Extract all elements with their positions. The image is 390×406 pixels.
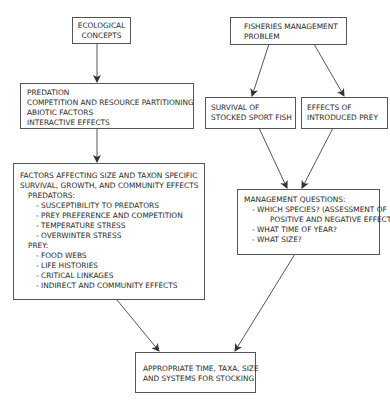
box-line: CONCEPTS bbox=[73, 31, 130, 41]
box-line: APPROPRIATE TIME, TAXA, SIZE bbox=[143, 364, 255, 374]
prey-item: - FOOD WEBS bbox=[20, 251, 204, 261]
box-line: ECOLOGICAL bbox=[73, 21, 130, 31]
predators-label: PREDATORS: bbox=[20, 191, 204, 201]
arrow-problem-to-effects bbox=[314, 44, 344, 96]
question-item: POSITIVE AND NEGATIVE EFFECTS) bbox=[244, 215, 379, 225]
box-line: SURVIVAL OF bbox=[211, 103, 295, 113]
question-item: - WHICH SPECIES? (ASSESSMENT OF bbox=[244, 205, 379, 215]
management-questions-box: MANAGEMENT QUESTIONS: - WHICH SPECIES? (… bbox=[237, 189, 380, 255]
prey-label: PREY: bbox=[20, 241, 204, 251]
principle-abiotic: ABIOTIC FACTORS bbox=[27, 108, 193, 118]
question-item: - WHAT SIZE? bbox=[244, 235, 379, 245]
arrow-survival-to-questions bbox=[259, 128, 287, 188]
arrow-factors-to-appropriate bbox=[117, 300, 159, 351]
questions-title: MANAGEMENT QUESTIONS: bbox=[244, 195, 379, 205]
predator-item: - PREY PREFERENCE AND COMPETITION bbox=[20, 211, 204, 221]
question-item: - WHAT TIME OF YEAR? bbox=[244, 225, 379, 235]
predator-item: - TEMPERATURE STRESS bbox=[20, 221, 204, 231]
box-line: FISHERIES MANAGEMENT bbox=[244, 22, 346, 32]
principle-predation: PREDATION bbox=[27, 88, 193, 98]
effects-prey-box: EFFECTS OF INTRODUCED PREY bbox=[301, 97, 388, 129]
box-line: STOCKED SPORT FISH bbox=[211, 113, 295, 123]
principle-competition: COMPETITION AND RESOURCE PARTITIONING bbox=[27, 98, 193, 108]
fisheries-problem-box: FISHERIES MANAGEMENT PROBLEM bbox=[230, 17, 347, 45]
box-line: AND SYSTEMS FOR STOCKING bbox=[143, 374, 255, 384]
prey-item: - LIFE HISTORIES bbox=[20, 261, 204, 271]
arrow-questions-to-appropriate bbox=[235, 254, 295, 351]
arrow-problem-to-survival bbox=[252, 44, 269, 96]
box-line: EFFECTS OF bbox=[307, 103, 387, 113]
factors-title: SURVIVAL, GROWTH, AND COMMUNITY EFFECTS bbox=[20, 181, 204, 191]
survival-stocked-box: SURVIVAL OF STOCKED SPORT FISH bbox=[205, 97, 296, 129]
factors-title: FACTORS AFFECTING SIZE AND TAXON SPECIFI… bbox=[20, 171, 204, 181]
predator-item: - OVERWINTER STRESS bbox=[20, 231, 204, 241]
factors-box: FACTORS AFFECTING SIZE AND TAXON SPECIFI… bbox=[13, 163, 205, 300]
box-line: PROBLEM bbox=[244, 32, 346, 42]
ecological-principles-box: PREDATION COMPETITION AND RESOURCE PARTI… bbox=[20, 83, 194, 129]
appropriate-stocking-box: APPROPRIATE TIME, TAXA, SIZE AND SYSTEMS… bbox=[135, 352, 256, 393]
arrow-effects-to-questions bbox=[302, 128, 333, 188]
predator-item: - SUSCEPTIBILITY TO PREDATORS bbox=[20, 201, 204, 211]
principle-interactive: INTERACTIVE EFFECTS bbox=[27, 118, 193, 128]
prey-item: - INDIRECT AND COMMUNITY EFFECTS bbox=[20, 281, 204, 291]
box-line: INTRODUCED PREY bbox=[307, 113, 387, 123]
ecological-concepts-box: ECOLOGICAL CONCEPTS bbox=[72, 17, 131, 44]
prey-item: - CRITICAL LINKAGES bbox=[20, 271, 204, 281]
